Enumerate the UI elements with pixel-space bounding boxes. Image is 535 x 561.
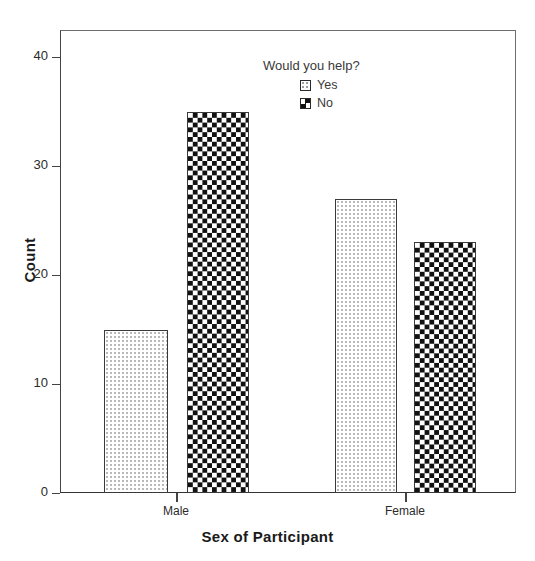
y-tick-label: 30 bbox=[34, 157, 48, 172]
bar-male-yes bbox=[104, 330, 168, 494]
light-dotted-swatch bbox=[300, 80, 311, 91]
legend: Would you help? YesNo bbox=[258, 58, 418, 114]
y-tick-mark bbox=[52, 275, 60, 277]
checkerboard-swatch bbox=[300, 98, 311, 109]
x-tick-mark bbox=[405, 493, 407, 502]
legend-item-label: No bbox=[317, 96, 333, 110]
x-tick-label: Male bbox=[116, 504, 236, 518]
x-tick-mark bbox=[176, 493, 178, 502]
bar-chart-figure: Count 010203040 MaleFemale Would you hel… bbox=[0, 0, 535, 561]
bar-female-no bbox=[414, 242, 476, 493]
bar-female-yes bbox=[335, 199, 397, 493]
y-tick-label: 0 bbox=[41, 484, 48, 499]
y-tick: 20 bbox=[0, 275, 60, 276]
y-tick: 10 bbox=[0, 384, 60, 385]
y-axis-label: Count bbox=[21, 205, 38, 315]
y-tick-label: 20 bbox=[34, 266, 48, 281]
legend-entries: YesNo bbox=[258, 78, 418, 110]
y-tick-mark bbox=[52, 166, 60, 168]
legend-title: Would you help? bbox=[258, 58, 418, 73]
y-tick-label: 40 bbox=[34, 48, 48, 63]
y-tick: 40 bbox=[0, 57, 60, 58]
legend-item-label: Yes bbox=[317, 78, 337, 92]
y-tick: 30 bbox=[0, 166, 60, 167]
legend-item-yes: Yes bbox=[300, 78, 418, 92]
x-axis-label: Sex of Participant bbox=[0, 528, 535, 545]
y-tick-mark bbox=[52, 57, 60, 59]
y-tick: 0 bbox=[0, 493, 60, 494]
y-tick-mark bbox=[52, 493, 60, 495]
x-tick-label: Female bbox=[345, 504, 465, 518]
legend-item-no: No bbox=[300, 96, 418, 110]
bar-male-no bbox=[187, 112, 249, 494]
y-tick-mark bbox=[52, 384, 60, 386]
y-tick-label: 10 bbox=[34, 375, 48, 390]
